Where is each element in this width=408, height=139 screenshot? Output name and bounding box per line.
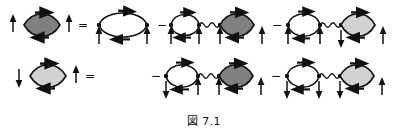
figure-container: = − [0, 0, 408, 139]
wavy-interaction-line [320, 23, 341, 28]
equation-row-1: = − [0, 0, 408, 55]
minus-sign: − [151, 69, 161, 83]
diagram-term-bubble-wavy-blob-dark [169, 12, 262, 44]
equation-row-2: = − − [0, 55, 408, 110]
vertex-blob-light [30, 64, 66, 89]
equals-sign: = [85, 69, 95, 83]
equals-sign: = [78, 18, 88, 32]
wavy-interaction-line [319, 74, 340, 79]
figure-caption: 図 7.1 [0, 112, 408, 128]
minus-sign: − [272, 18, 282, 32]
minus-sign: − [271, 69, 281, 83]
diagram-term-bare-bubble [97, 11, 149, 44]
wavy-interaction-line [199, 23, 220, 28]
minus-sign: − [157, 18, 167, 32]
diagram-term-bubble-wavy-blob-light [286, 12, 383, 44]
vertex-blob-dark [24, 13, 60, 38]
diagram-term-bubble-wavy-blob-dark [164, 63, 261, 95]
wavy-interaction-line [198, 74, 219, 79]
diagram-term-bubble-wavy-blob-light [285, 63, 382, 95]
